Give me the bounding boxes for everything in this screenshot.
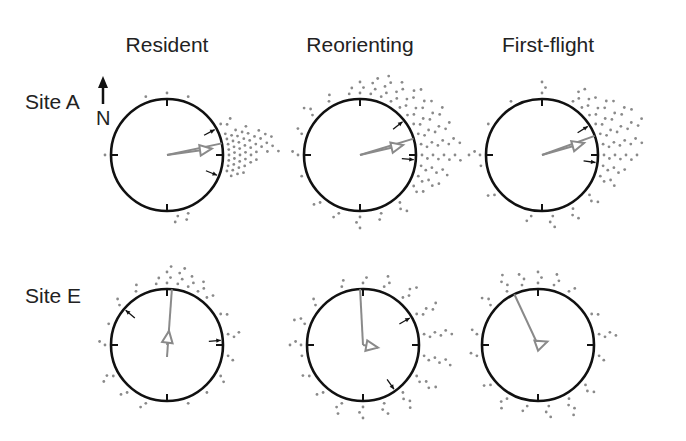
row-title-site-e: Site E [25,284,81,307]
column-title-first-flight: First-flight [502,33,594,56]
confidence-arrow-icon [387,379,394,389]
confidence-arrow-icon [399,318,409,324]
north-label: N [96,107,110,129]
circular-plot-site-a-resident [104,92,280,224]
confidence-arrow-icon [126,310,135,318]
circular-plot-site-e-reorienting [289,275,454,419]
circular-plot-site-a-first-flight [468,81,644,229]
bearing-dots [468,81,644,229]
mean-vector-arrow-icon [167,143,222,155]
mean-vector-arrow-icon [360,139,414,155]
confidence-arrow-icon [578,126,588,132]
mean-vector-arrow-icon [542,136,595,155]
panels-group [98,75,643,420]
column-title-resident: Resident [126,33,209,56]
circular-plot-site-e-resident [98,265,240,408]
confidence-arrow-icon [206,171,217,176]
confidence-arrow-icon [584,160,596,164]
confidence-arrow-icon [393,122,402,129]
confidence-arrow-icon [209,339,221,343]
confidence-arrow-icon [204,130,215,136]
row-title-site-a: Site A [25,90,80,113]
north-arrow-icon [98,76,108,104]
column-title-reorienting: Reorienting [306,33,413,56]
confidence-arrow-icon [402,157,414,161]
mean-vector-arrow-icon [162,289,172,357]
circular-plot-site-e-first-flight [470,271,618,419]
mean-vector-arrow-icon [360,289,378,351]
mean-vector-arrow-icon [514,294,547,350]
circular-plot-site-a-reorienting [291,75,462,230]
orientation-figure: Resident Reorienting First-flight Site A… [0,0,686,441]
